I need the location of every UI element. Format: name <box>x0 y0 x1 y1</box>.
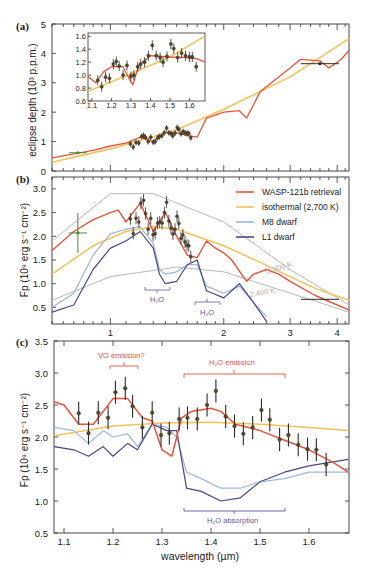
data-point <box>147 140 150 143</box>
data-point <box>268 418 272 422</box>
tick-label: 1.5 <box>165 101 175 110</box>
data-point <box>144 136 147 139</box>
data-point <box>306 447 310 451</box>
vo-emission-bracket: VO emission? <box>98 351 145 369</box>
data-point <box>142 199 145 202</box>
photometry-point <box>76 151 79 154</box>
tick-label: 1.3 <box>155 536 168 547</box>
tick-label: 3.0 <box>33 183 46 194</box>
tick-label: 1.2 <box>76 58 86 67</box>
inset-data-point <box>100 85 103 88</box>
panel-c-label: (c) <box>16 336 29 349</box>
data-point <box>168 431 172 435</box>
data-point <box>189 255 192 258</box>
panel-a: (a) 012345 eclipse depth (10³ p.p.m.) 0.… <box>16 19 349 177</box>
data-point <box>123 387 127 391</box>
tick-label: 2 <box>221 327 226 338</box>
inset-data-point <box>176 56 179 59</box>
inset-data-point <box>143 61 146 64</box>
tick-label: 1.0 <box>76 71 86 80</box>
inset-data-point <box>191 55 194 58</box>
data-point <box>278 438 282 442</box>
inset-data-point <box>159 56 162 59</box>
inset-data-point <box>115 60 118 63</box>
tick-label: 0.5 <box>33 302 46 313</box>
panel-a-label: (a) <box>16 20 29 33</box>
m8-dwarf-line <box>54 424 348 488</box>
data-point <box>165 201 168 204</box>
h2o-bracket-2: H₂O <box>195 299 220 317</box>
data-point <box>77 412 81 416</box>
data-point <box>169 227 172 230</box>
data-point <box>224 415 228 419</box>
data-point <box>163 211 166 214</box>
data-point <box>147 228 150 231</box>
tick-label: 1.6 <box>184 101 194 110</box>
data-point <box>174 132 177 135</box>
tick-label: 1.6 <box>302 536 315 547</box>
tick-label: 0.5 <box>35 528 48 539</box>
h2o-absorption-bracket: H₂O absorption <box>184 508 285 525</box>
data-point <box>315 448 319 452</box>
panel-c-ylabel: Fp (10⁹ erg s⁻¹ cm⁻²) <box>19 393 30 487</box>
inset-data-point <box>132 73 135 76</box>
panel-c-lines <box>54 377 348 501</box>
tick-label: 1.4 <box>204 536 217 547</box>
data-point <box>129 217 132 220</box>
inset-data-point <box>151 44 154 47</box>
panel-b-label: (b) <box>16 173 30 186</box>
data-point <box>181 233 184 236</box>
tick-label: 3 <box>41 77 46 88</box>
inset-data-point <box>104 75 107 78</box>
tick-label: 1 <box>108 327 113 338</box>
tick-label: 0.6 <box>76 97 86 106</box>
inset-data-point <box>195 65 198 68</box>
retrieval-line <box>52 203 349 310</box>
data-point <box>177 417 181 421</box>
legend-label: M8 dwarf <box>262 217 298 227</box>
data-point <box>260 408 264 412</box>
inset-data-point <box>108 77 111 80</box>
inset-data-point <box>161 61 164 64</box>
data-point <box>177 128 180 131</box>
tick-label: 1.5 <box>253 536 266 547</box>
panel-b-yticks: 0.51.01.52.02.53.0 <box>33 183 56 313</box>
data-point <box>324 463 328 467</box>
data-point <box>135 217 138 220</box>
tick-label: 3.0 <box>35 368 48 379</box>
data-point <box>296 443 300 447</box>
data-point <box>137 221 140 224</box>
data-point <box>144 212 147 215</box>
inset-data-point <box>165 55 168 58</box>
data-point <box>154 232 157 235</box>
data-point <box>242 432 246 436</box>
legend-label: WASP-121b retrieval <box>262 187 341 197</box>
inset-data-point <box>184 54 187 57</box>
data-point <box>177 222 180 225</box>
tick-label: 4 <box>41 48 46 59</box>
data-point <box>131 404 135 408</box>
tick-label: 2.0 <box>33 231 46 242</box>
x-axis-label: wavelength (µm) <box>160 550 239 562</box>
data-point <box>167 220 170 223</box>
panel-b-ylabel: Fp (10⁹ erg s⁻¹ cm⁻²) <box>19 203 30 297</box>
data-point <box>186 416 190 420</box>
panel-a-ylabel: eclipse depth (10³ p.p.m.) <box>27 43 38 156</box>
panel-a-inset: 0.60.81.01.21.41.61.11.21.31.41.51.6 <box>76 32 205 110</box>
tick-label: 2.5 <box>33 207 46 218</box>
h2o-label-1: H₂O <box>150 295 164 304</box>
data-point <box>161 221 164 224</box>
inset-data-point <box>112 62 115 65</box>
tick-label: 2.5 <box>35 400 48 411</box>
tick-label: 1.0 <box>35 496 48 507</box>
h2o-emission-bracket: H₂O emission <box>184 358 285 378</box>
inset-data-point <box>139 62 142 65</box>
inset-data-point <box>155 54 158 57</box>
data-point <box>132 145 135 148</box>
tick-label: 1.0 <box>33 278 46 289</box>
inset-data-point <box>169 42 172 45</box>
tick-label: 1 <box>41 136 46 147</box>
legend-label: L1 dwarf <box>262 232 295 242</box>
inset-data-point <box>125 64 128 67</box>
tick-label: 0 <box>41 166 46 177</box>
